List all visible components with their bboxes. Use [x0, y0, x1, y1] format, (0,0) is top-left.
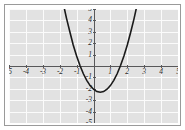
- plot-area: -5-4-3-2-11234554321-1-2-3-4-5: [9, 9, 178, 123]
- plot-frame: -5-4-3-2-11234554321-1-2-3-4-5: [4, 4, 181, 126]
- parabola-curve: [9, 9, 178, 123]
- graph-figure: -5-4-3-2-11234554321-1-2-3-4-5: [0, 0, 185, 130]
